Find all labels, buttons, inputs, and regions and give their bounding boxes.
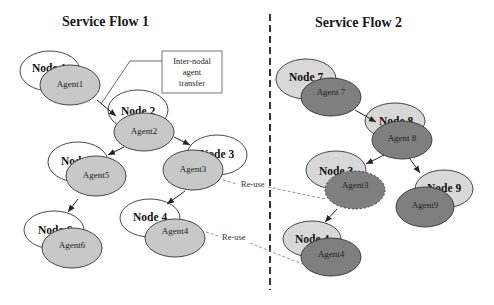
agent-label: Agent5 [83,170,110,180]
note-line-3: transfer [179,78,205,88]
service-flow-diagram: Service Flow 1 Service Flow 2 Inter-noda… [0,0,494,305]
note-line-2: agent [183,67,202,77]
agent-label: Agent4 [318,249,345,259]
service-flow-1-title: Service Flow 1 [62,14,149,29]
flow2-node-7: Node 7 Agent 7 [276,59,361,116]
flow2-node-4: Node 4 Agent4 [283,221,361,276]
flow2-node-9: Node 9 Agent9 [396,170,473,227]
agent-label: Agent4 [162,226,189,236]
arrow-agent8-to-node9 [410,159,420,173]
arrow-agent8-to-node3 [366,155,384,164]
reuse-label: Re-use [241,179,265,189]
agent-label: Agent 8 [388,133,417,143]
agent-label: Agent6 [59,240,86,250]
agent-label: Agent9 [412,200,439,210]
flow1-node-1: Node 1 Agent1 [20,51,100,105]
agent-label: Agent3 [180,164,207,174]
arrow-agent5-to-node6 [68,199,78,212]
reuse-link-agent3: Re-use [223,179,326,199]
arrow-agent3-to-node4 [167,191,185,204]
arrow-agent2-to-node5 [108,147,124,155]
flow1-node-6: Node 6 Agent6 [24,211,102,268]
flow1-node-5: Node 5 Agent5 [48,142,126,196]
flow1-node-2: Node 2 Agent2 [108,90,174,151]
agent-label: Agent3 [342,180,369,190]
arrow-agent2-to-node3 [174,137,190,145]
agent-label: Agent1 [57,79,84,89]
note-line-1: Inter-nodal [173,56,211,66]
flow1-node-3: Node 3 Agent3 [163,135,247,190]
agent-label: Agent 7 [317,87,346,97]
flow2-node-8: Node 8 Agent 8 [365,103,432,159]
reuse-label: Re-use [222,232,246,242]
arrow-agent3-to-node4 [325,209,337,222]
service-flow-2-title: Service Flow 2 [315,15,402,30]
flow2-node-3: Node 3 Agent3 [306,151,385,209]
agent-label: Agent2 [131,126,158,136]
flow1-node-4: Node 4 Agent4 [120,199,205,257]
